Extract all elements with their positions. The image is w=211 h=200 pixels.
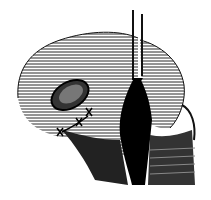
illustration [0,0,211,200]
anatomical-drawing [0,0,211,200]
